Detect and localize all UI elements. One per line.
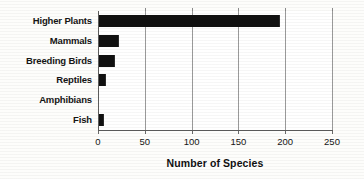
tickmark-bottom [98, 131, 99, 134]
bar [99, 35, 119, 47]
tickmark-top [332, 8, 333, 11]
tick-label: 150 [223, 136, 253, 147]
species-bar-chart: Higher PlantsMammalsBreeding BirdsReptil… [0, 0, 364, 179]
gridline [332, 11, 333, 130]
tick-label: 50 [130, 136, 160, 147]
gridline [145, 11, 146, 130]
y-axis-line [98, 11, 99, 130]
plot-background [98, 11, 332, 130]
tickmark-bottom [238, 131, 239, 134]
gridline [285, 11, 286, 130]
tick-label: 250 [317, 136, 347, 147]
tickmark-bottom [145, 131, 146, 134]
tickmark-top [192, 8, 193, 11]
bar [99, 15, 280, 27]
tickmark-top [285, 8, 286, 11]
tickmark-bottom [285, 131, 286, 134]
bar [99, 114, 104, 126]
x-axis-title: Number of Species [98, 157, 332, 169]
plot-area [98, 11, 332, 130]
tick-label: 100 [177, 136, 207, 147]
category-axis-labels: Higher PlantsMammalsBreeding BirdsReptil… [0, 11, 92, 130]
category-label: Amphibians [0, 95, 92, 105]
gridline [238, 11, 239, 130]
category-label: Higher Plants [0, 16, 92, 26]
tick-label: 200 [270, 136, 300, 147]
category-label: Fish [0, 115, 92, 125]
category-label: Reptiles [0, 75, 92, 85]
x-axis-line [98, 130, 333, 131]
gridline [192, 11, 193, 130]
tickmark-top [145, 8, 146, 11]
tickmark-top [238, 8, 239, 11]
bar [99, 74, 106, 86]
bar [99, 55, 115, 67]
x-axis-tick-labels: 050100150200250 [98, 136, 338, 150]
category-label: Breeding Birds [0, 56, 92, 66]
tickmark-bottom [192, 131, 193, 134]
tickmark-bottom [332, 131, 333, 134]
tick-label: 0 [83, 136, 113, 147]
category-label: Mammals [0, 36, 92, 46]
